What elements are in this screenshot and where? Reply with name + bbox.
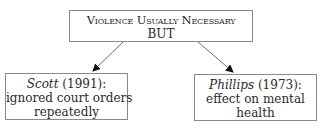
- scott-author: Scott: [27, 77, 59, 91]
- scott-line-2: ignored court orders: [6, 91, 127, 105]
- scott-citation: Scott (1991):: [6, 77, 127, 91]
- arrow-to-scott: [93, 42, 123, 71]
- main-claim-box: Violence Usually Necessary BUT: [69, 10, 253, 42]
- scott-case-box: Scott (1991): ignored court orders repea…: [5, 73, 128, 120]
- phillips-citation: Phillips (1973):: [195, 78, 316, 92]
- scott-line-3: repeatedly: [6, 105, 127, 119]
- phillips-case-box: Phillips (1973): effect on mental health: [194, 74, 317, 121]
- main-claim-title: Violence Usually Necessary: [70, 13, 252, 27]
- phillips-author: Phillips: [209, 78, 254, 92]
- phillips-year: (1973):: [254, 78, 302, 92]
- phillips-line-3: health: [195, 106, 316, 120]
- arrow-to-phillips: [198, 42, 233, 72]
- scott-year: (1991):: [59, 77, 107, 91]
- main-claim-but: BUT: [70, 27, 252, 41]
- phillips-line-2: effect on mental: [195, 92, 316, 106]
